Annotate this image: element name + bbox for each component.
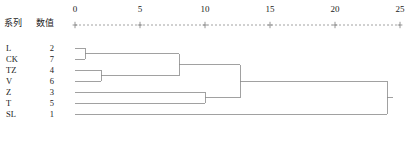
dendrogram-tree (0, 0, 408, 143)
dendrogram-figure: 系列 数值 0510152025 L2CK7TZ4V6Z3T5SL1 (0, 0, 408, 143)
